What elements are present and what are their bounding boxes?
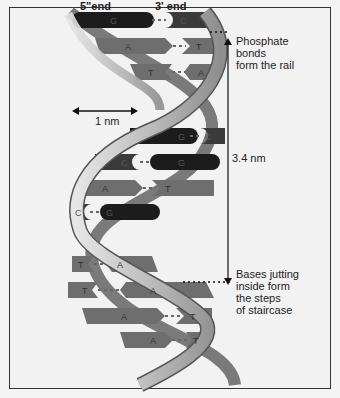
svg-text:Phosphate: Phosphate [236,35,289,47]
svg-text:the steps: the steps [236,292,281,304]
svg-text:inside form: inside form [236,280,290,292]
svg-text:of staircase: of staircase [236,304,292,316]
svg-text:A: A [150,336,156,346]
svg-text:A: A [117,260,123,270]
svg-text:G: G [178,132,185,142]
pitch-label: 3.4 nm [232,152,266,164]
svg-text:C: C [205,132,212,142]
steps-annotation: Bases jutting inside form the steps of s… [236,268,299,316]
svg-text:A: A [121,312,127,322]
svg-text:T: T [82,286,88,296]
width-arrow [72,107,138,115]
svg-text:G: G [110,16,117,26]
svg-text:G: G [106,208,113,218]
svg-text:A: A [198,68,204,78]
svg-text:T: T [190,312,196,322]
svg-text:T: T [193,336,199,346]
svg-text:T: T [78,260,84,270]
svg-text:C: C [180,16,187,26]
five-end-label: 5"end [80,0,111,12]
svg-text:C: C [75,208,82,218]
svg-text:Bases jutting: Bases jutting [236,268,299,280]
svg-text:A: A [150,286,156,296]
svg-text:A: A [102,184,108,194]
svg-text:G: G [178,158,185,168]
width-label: 1 nm [95,115,119,127]
svg-text:T: T [196,42,202,52]
svg-text:T: T [148,68,154,78]
svg-text:A: A [125,42,131,52]
rail-annotation: Phosphate bonds form the rail [236,35,294,71]
svg-text:C: C [121,158,128,168]
three-end-label: 3' end [155,0,186,12]
svg-text:form the rail: form the rail [236,59,294,71]
dna-helix-diagram: G C A T T A G C C G A T C G T A T A A T … [0,0,340,398]
svg-text:T: T [165,184,171,194]
svg-text:bonds: bonds [236,47,266,59]
